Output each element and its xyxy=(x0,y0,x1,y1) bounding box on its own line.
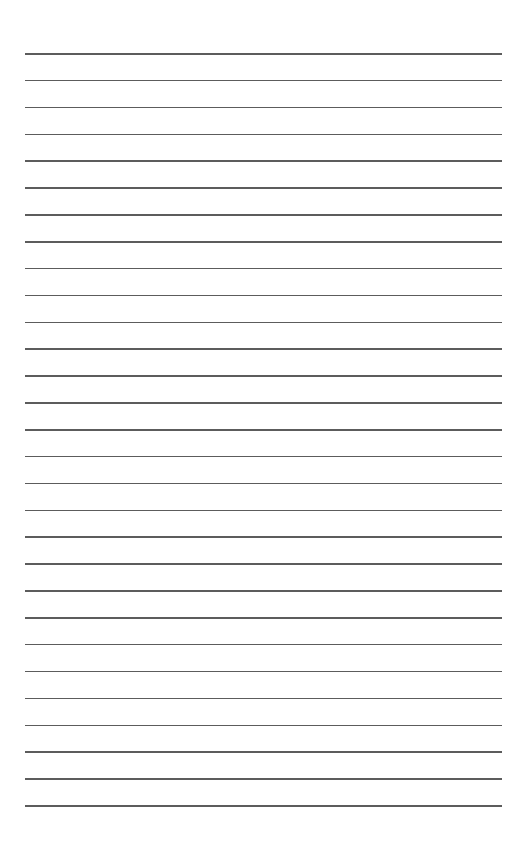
ruled-line xyxy=(25,80,502,82)
ruled-line xyxy=(25,268,502,270)
ruled-line xyxy=(25,536,502,538)
ruled-line xyxy=(25,751,502,753)
ruled-line xyxy=(25,322,502,324)
ruled-line xyxy=(25,107,502,109)
lined-paper-page xyxy=(0,0,517,862)
ruled-line xyxy=(25,214,502,216)
ruled-line xyxy=(25,510,502,512)
ruled-line xyxy=(25,617,502,619)
ruled-line xyxy=(25,590,502,592)
ruled-line xyxy=(25,402,502,404)
ruled-line xyxy=(25,295,502,297)
ruled-line xyxy=(25,375,502,377)
ruled-line xyxy=(25,429,502,431)
ruled-line xyxy=(25,483,502,485)
ruled-line xyxy=(25,53,502,55)
ruled-line xyxy=(25,644,502,646)
ruled-line xyxy=(25,805,502,807)
ruled-line xyxy=(25,725,502,727)
ruled-line xyxy=(25,348,502,350)
ruled-line xyxy=(25,671,502,673)
ruled-line xyxy=(25,241,502,243)
ruled-line xyxy=(25,456,502,458)
ruled-line xyxy=(25,134,502,136)
ruled-line xyxy=(25,160,502,162)
ruled-line xyxy=(25,563,502,565)
ruled-line xyxy=(25,698,502,700)
ruled-line xyxy=(25,187,502,189)
ruled-line xyxy=(25,778,502,780)
